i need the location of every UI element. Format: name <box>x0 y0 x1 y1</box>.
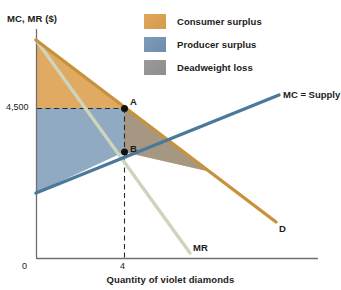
supply-curve-label: MC = Supply <box>283 89 340 100</box>
y-axis-title: MC, MR ($) <box>7 13 57 24</box>
x-axis-tick-quantity: 4 <box>120 261 125 271</box>
chart-legend: Consumer surplus Producer surplus Deadwe… <box>144 14 262 83</box>
point-a-marker <box>121 105 128 112</box>
point-b-marker <box>121 149 128 156</box>
y-axis-tick-price: 4,500 <box>6 102 29 112</box>
x-axis-tick-origin: 0 <box>22 261 27 271</box>
legend-label-producer-surplus: Producer surplus <box>177 39 256 50</box>
economics-chart-figure: MC, MR ($) Quantity of violet diamonds 0… <box>0 0 341 290</box>
producer-surplus-swatch-icon <box>144 37 166 52</box>
producer-surplus-region <box>36 108 124 193</box>
point-a-label: A <box>130 96 137 107</box>
point-b-label: B <box>130 143 137 154</box>
deadweight-loss-swatch-icon <box>144 60 166 75</box>
legend-label-consumer-surplus: Consumer surplus <box>177 16 262 27</box>
legend-item-producer-surplus: Producer surplus <box>144 37 262 52</box>
legend-item-deadweight-loss: Deadweight loss <box>144 60 262 75</box>
demand-curve-label: D <box>279 223 286 234</box>
legend-item-consumer-surplus: Consumer surplus <box>144 14 262 29</box>
x-axis-title: Quantity of violet diamonds <box>0 274 341 285</box>
marginal-revenue-curve-label: MR <box>193 242 208 253</box>
consumer-surplus-swatch-icon <box>144 14 166 29</box>
legend-label-deadweight-loss: Deadweight loss <box>177 62 253 73</box>
